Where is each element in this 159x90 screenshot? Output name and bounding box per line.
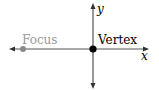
y-axis-up-arrow-icon xyxy=(91,3,96,9)
vertex-point xyxy=(89,45,96,52)
x-axis-label: x xyxy=(141,49,148,63)
x-axis-left-arrow-icon xyxy=(9,47,15,52)
coordinate-diagram: Focus Vertex y x xyxy=(0,0,159,90)
focus-label: Focus xyxy=(22,33,58,47)
y-axis-down-arrow-icon xyxy=(91,83,96,89)
y-axis-label: y xyxy=(96,2,104,16)
vertex-label: Vertex xyxy=(97,33,137,47)
